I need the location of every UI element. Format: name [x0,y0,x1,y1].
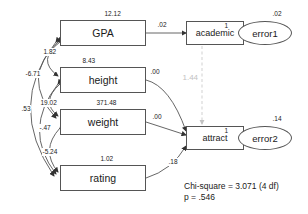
node-rating-label: rating [90,172,116,184]
node-error2-label: error2 [252,133,277,144]
variance-gpa: 12.12 [104,10,121,18]
fit-statistic-chi-square: Chi-square = 3.071 (4 df) [184,181,279,192]
coefficient-gpa-academic: .02 [157,21,167,29]
covariance-label-height-rating: -.47 [39,124,51,132]
node-gpa-label: GPA [92,27,113,39]
node-rating[interactable]: rating [60,165,146,191]
coefficient-academic-attract: 1.44 [182,74,199,82]
loading-error2-attract: 1 [224,127,229,135]
covariance-label-gpa-height: 1.82 [43,48,57,56]
variance-rating: 1.02 [100,155,114,163]
node-error2[interactable]: error2 [238,126,292,150]
covariance-label-gpa-weight: -6.71 [25,70,41,78]
node-height[interactable]: height [60,67,146,93]
loading-error1-academic: 1 [224,22,229,30]
covariance-label-gpa-rating: .53 [21,105,31,113]
path-rating-to-attract [146,146,186,178]
node-error1-label: error1 [252,28,277,39]
variance-height: 8.43 [82,57,96,65]
covariance-label-height-weight: 19.02 [40,99,57,107]
coefficient-rating-attract: .18 [168,158,178,166]
node-height-label: height [89,74,118,86]
variance-error2: .14 [272,115,282,123]
coefficient-weight-attract: .00 [152,113,162,121]
path-weight-to-attract [146,122,186,135]
node-weight[interactable]: weight [60,109,146,135]
variance-weight: 371.48 [96,99,117,107]
node-attract[interactable]: attract [186,126,244,150]
path-diagram-canvas: GPA 12.12 height 8.43 weight 371.48 rati… [0,0,308,214]
covariance-label-weight-rating: -5.24 [42,148,58,156]
node-weight-label: weight [88,116,118,128]
node-academic[interactable]: academic [186,21,244,45]
coefficient-height-attract: .00 [150,68,160,76]
node-error1[interactable]: error1 [238,21,292,45]
variance-error1: .02 [272,10,282,18]
node-gpa[interactable]: GPA [60,20,146,46]
fit-statistic-p-value: p = .546 [184,192,215,203]
path-height-to-attract [146,80,186,131]
